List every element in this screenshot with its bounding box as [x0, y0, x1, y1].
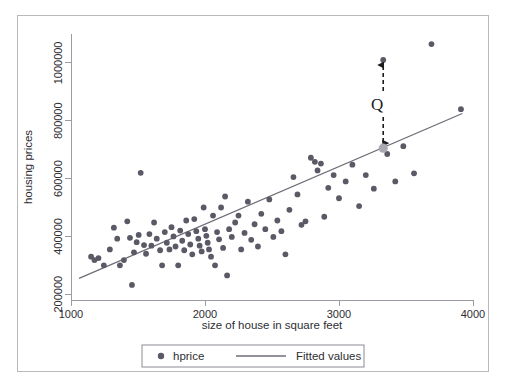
data-point	[429, 41, 435, 47]
data-point	[315, 168, 321, 174]
data-point	[171, 233, 177, 239]
data-point	[380, 57, 386, 63]
x-tick-label: 4000	[461, 308, 485, 320]
data-point	[208, 254, 214, 260]
data-point	[199, 249, 205, 255]
data-point	[224, 273, 230, 279]
data-point	[291, 174, 297, 180]
data-point	[96, 255, 102, 261]
data-point	[266, 196, 272, 202]
data-point	[203, 233, 209, 239]
data-point	[245, 199, 251, 205]
data-point	[252, 221, 258, 227]
data-point	[177, 228, 183, 234]
data-point	[274, 218, 280, 224]
y-tick-label: 400000	[52, 218, 64, 255]
y-axis-title: housing prices	[22, 130, 34, 204]
y-tick-label: 800000	[52, 102, 64, 139]
screenshot-root: 2000004000006000008000001000000 10002000…	[0, 0, 508, 392]
data-point	[117, 262, 123, 268]
data-point	[101, 262, 107, 268]
data-point	[371, 186, 377, 192]
data-point	[287, 207, 293, 213]
data-point	[318, 161, 324, 167]
data-point	[295, 192, 301, 198]
scatter-points	[88, 41, 464, 288]
data-point	[262, 226, 268, 232]
data-point	[350, 162, 356, 168]
data-point	[191, 216, 197, 222]
data-point	[278, 228, 284, 234]
scatter-chart: 2000004000006000008000001000000 10002000…	[18, 16, 488, 371]
data-point	[131, 249, 137, 255]
data-point	[162, 229, 168, 235]
y-tick-label: 1000000	[52, 41, 64, 84]
data-point	[143, 251, 149, 257]
data-point	[187, 242, 193, 248]
data-point	[183, 218, 189, 224]
legend-marker-hprice	[158, 353, 164, 359]
data-point	[193, 228, 199, 234]
data-point	[201, 205, 207, 211]
data-point	[229, 234, 235, 240]
data-point	[107, 247, 113, 253]
data-point	[127, 235, 133, 241]
data-point	[159, 262, 165, 268]
data-point	[121, 257, 127, 263]
data-point	[283, 251, 289, 257]
data-point	[212, 262, 218, 268]
legend: hprice Fitted values	[142, 345, 364, 367]
x-tick-label: 1000	[59, 308, 83, 320]
data-point	[141, 242, 147, 248]
data-point	[400, 143, 406, 149]
highlighted-point	[379, 144, 388, 153]
x-axis-ticks: 1000200030004000	[59, 300, 485, 320]
data-point	[185, 231, 191, 237]
data-point	[232, 220, 238, 226]
data-point	[138, 170, 144, 176]
legend-label-hprice: hprice	[173, 350, 204, 362]
data-point	[325, 185, 331, 191]
data-point	[363, 172, 369, 178]
data-point	[248, 237, 254, 243]
data-point	[411, 170, 417, 176]
data-point	[343, 179, 349, 185]
data-point	[205, 240, 211, 246]
data-point	[173, 244, 179, 250]
data-point	[242, 230, 248, 236]
data-point	[336, 195, 342, 201]
data-point	[255, 244, 261, 250]
data-point	[218, 205, 224, 211]
x-axis-title: size of house in square feet	[202, 319, 343, 331]
data-point	[151, 220, 157, 226]
data-point	[392, 179, 398, 185]
data-point	[181, 247, 187, 253]
legend-label-fitted: Fitted values	[296, 350, 361, 362]
data-point	[270, 234, 276, 240]
data-point	[331, 172, 337, 178]
data-point	[321, 214, 327, 220]
data-point	[149, 243, 155, 249]
data-point	[134, 239, 140, 245]
data-point	[222, 194, 228, 200]
data-point	[179, 238, 185, 244]
data-point	[167, 247, 173, 253]
y-tick-label: 600000	[52, 160, 64, 197]
data-point	[258, 211, 264, 217]
data-point	[238, 247, 244, 253]
data-point	[210, 213, 216, 219]
data-point	[206, 247, 212, 253]
data-point	[164, 240, 170, 246]
data-point	[129, 282, 135, 288]
data-point	[169, 224, 175, 230]
data-point	[146, 231, 152, 237]
data-point	[458, 106, 464, 112]
data-point	[236, 213, 242, 219]
data-point	[226, 226, 232, 232]
data-point	[157, 247, 163, 253]
data-point	[214, 229, 220, 235]
data-point	[312, 159, 318, 165]
axes-group	[71, 34, 473, 300]
data-point	[111, 225, 117, 231]
data-point	[136, 232, 142, 238]
